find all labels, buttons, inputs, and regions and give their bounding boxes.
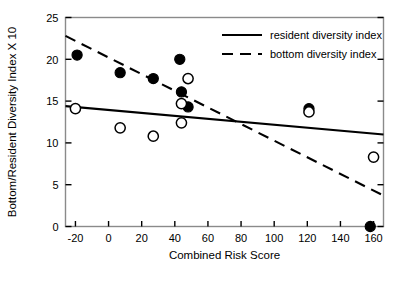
y-tick-label: 10 bbox=[46, 137, 58, 149]
bottom-index-point bbox=[176, 87, 186, 97]
x-tick-label: 160 bbox=[364, 232, 382, 244]
resident-index-point bbox=[148, 131, 158, 141]
legend-label-bottom: bottom diversity index bbox=[270, 48, 377, 60]
x-tick-label: -20 bbox=[67, 232, 83, 244]
x-tick-label: 20 bbox=[136, 232, 148, 244]
bottom-index-point bbox=[148, 73, 158, 83]
y-tick-label: 15 bbox=[46, 95, 58, 107]
y-tick-label: 5 bbox=[52, 179, 58, 191]
x-tick-label: 140 bbox=[331, 232, 349, 244]
resident-index-point bbox=[304, 107, 314, 117]
y-tick-label: 25 bbox=[46, 12, 58, 24]
y-axis-title: Bottom/Resident Diversity Index X 10 bbox=[6, 27, 18, 217]
bottom-index-point bbox=[72, 50, 82, 60]
x-tick-label: 120 bbox=[298, 232, 316, 244]
bottom-index-point bbox=[175, 54, 185, 64]
resident-index-fit-line bbox=[66, 106, 384, 134]
chart-canvas: -200204060801001201401600510152025Combin… bbox=[0, 0, 406, 281]
resident-index-point bbox=[176, 99, 186, 109]
legend-label-resident: resident diversity index bbox=[270, 29, 382, 41]
resident-index-point bbox=[70, 104, 80, 114]
y-tick-label: 0 bbox=[52, 221, 58, 233]
bottom-index-point bbox=[115, 68, 125, 78]
x-axis-title: Combined Risk Score bbox=[169, 249, 280, 261]
x-tick-label: 60 bbox=[202, 232, 214, 244]
scatter-chart: -200204060801001201401600510152025Combin… bbox=[0, 0, 406, 281]
resident-index-point bbox=[115, 123, 125, 133]
y-tick-label: 20 bbox=[46, 54, 58, 66]
x-tick-label: 80 bbox=[235, 232, 247, 244]
x-tick-label: 40 bbox=[169, 232, 181, 244]
bottom-index-point bbox=[365, 221, 375, 231]
x-tick-label: 100 bbox=[265, 232, 283, 244]
x-tick-label: 0 bbox=[106, 232, 112, 244]
resident-index-point bbox=[176, 118, 186, 128]
resident-index-point bbox=[183, 73, 193, 83]
resident-index-point bbox=[368, 152, 378, 162]
